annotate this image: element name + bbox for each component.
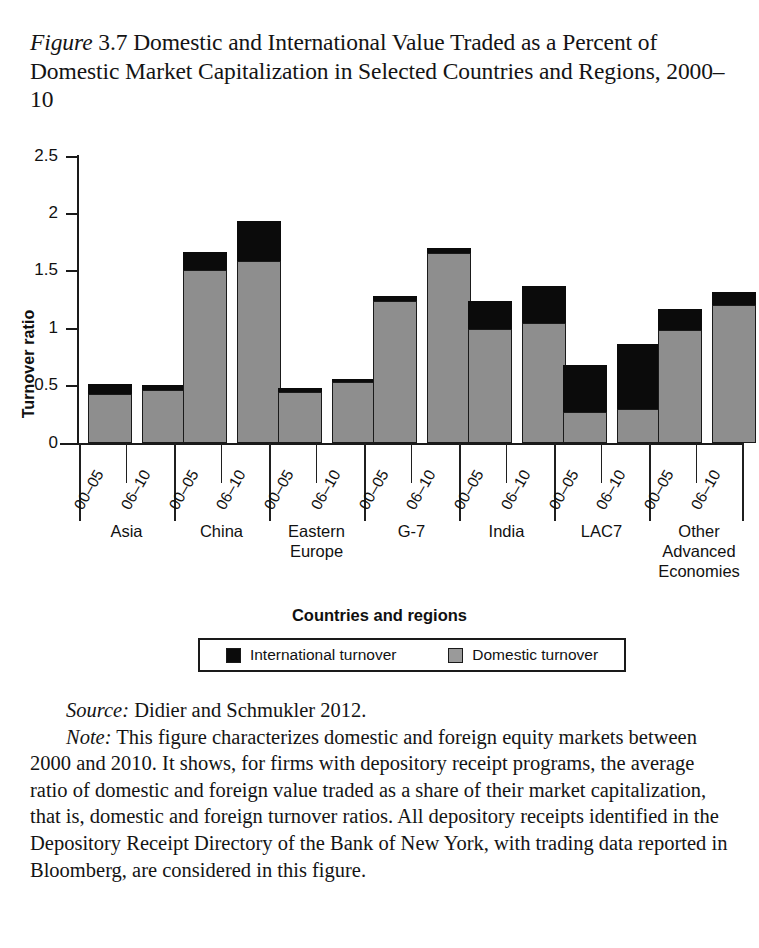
note-label: Note: (66, 726, 112, 748)
bar-segment-domestic (183, 270, 227, 443)
bar-segment-domestic (712, 305, 756, 443)
bar-segment-domestic (237, 261, 281, 443)
bar-other-advanced-00-05 (658, 309, 702, 443)
y-axis-title: Turnover ratio (20, 269, 38, 459)
y-tick-1.5 (66, 270, 78, 272)
period-separator (696, 443, 697, 483)
bar-china-06-10 (237, 221, 281, 443)
period-separator (411, 443, 412, 483)
bar-segment-domestic (373, 301, 417, 443)
bar-asia-00-05 (88, 384, 132, 444)
bar-segment-international (183, 252, 227, 270)
x-axis-line (60, 443, 743, 445)
note-line: Note: This figure characterizes domestic… (30, 724, 736, 884)
bar-segment-domestic (427, 253, 471, 443)
note-text: This figure characterizes domestic and f… (30, 726, 727, 881)
period-label-india-00-05: 00–05 (450, 467, 487, 513)
bar-segment-domestic (658, 330, 702, 443)
period-separator (601, 443, 602, 483)
bar-china-00-05 (183, 252, 227, 443)
bar-other-advanced-06-10 (712, 292, 756, 443)
figure-caption: Figure 3.7 Domestic and International Va… (30, 28, 730, 114)
y-tick-2.5 (66, 156, 78, 158)
figure-notes: Source: Didier and Schmukler 2012. Note:… (30, 697, 736, 883)
plot-area (78, 157, 742, 443)
period-label-lac7-00-05: 00–05 (545, 467, 582, 513)
period-label-asia-06-10: 06–10 (117, 467, 154, 513)
bar-asia-06-10 (142, 385, 186, 443)
bar-segment-international (237, 221, 281, 261)
period-label-g7-00-05: 00–05 (355, 467, 392, 513)
bar-india-00-05 (468, 301, 512, 443)
y-tick-label-1.5: 1.5 (6, 260, 58, 280)
bar-segment-domestic (88, 394, 132, 443)
period-label-lac7-06-10: 06–10 (592, 467, 629, 513)
bar-eastern-europe-00-05 (278, 388, 322, 443)
y-tick-label-0.5: 0.5 (6, 375, 58, 395)
legend-label-domestic: Domestic turnover (472, 646, 598, 664)
bar-lac7-00-05 (563, 365, 607, 443)
y-tick-0.5 (66, 385, 78, 387)
period-label-eastern-europe-00-05: 00–05 (260, 467, 297, 513)
bar-segment-international (563, 365, 607, 412)
source-text: Didier and Schmukler 2012. (134, 699, 366, 721)
period-label-asia-00-05: 00–05 (70, 467, 107, 513)
group-label-other-advanced: Other Advanced Economies (649, 521, 749, 581)
chart-legend: International turnover Domestic turnover (198, 638, 626, 672)
group-label-g7: G-7 (364, 521, 459, 541)
bar-india-06-10 (522, 286, 566, 443)
bar-segment-domestic (563, 412, 607, 443)
period-separator (506, 443, 507, 483)
group-label-asia: Asia (79, 521, 174, 541)
figure-number: 3.7 (98, 29, 127, 55)
period-separator (126, 443, 127, 483)
bar-chart: Turnover ratio 2.5 2 1.5 1 0.5 0 (0, 140, 759, 610)
period-separator (221, 443, 222, 483)
y-tick-1 (66, 328, 78, 330)
legend-item-international: International turnover (226, 646, 396, 664)
bar-segment-international (617, 344, 661, 409)
bar-segment-domestic (468, 329, 512, 443)
y-tick-label-2.5: 2.5 (6, 146, 58, 166)
source-line: Source: Didier and Schmukler 2012. (30, 697, 736, 724)
bar-segment-international (88, 384, 132, 394)
bar-lac7-06-10 (617, 344, 661, 444)
period-label-other-advanced-06-10: 06–10 (687, 467, 724, 513)
bar-g7-06-10 (427, 248, 471, 444)
legend-swatch-international-icon (226, 648, 241, 663)
group-separator (742, 443, 744, 521)
y-tick-label-2: 2 (6, 203, 58, 223)
period-label-g7-06-10: 06–10 (402, 467, 439, 513)
bar-g7-00-05 (373, 296, 417, 444)
group-label-china: China (174, 521, 269, 541)
bar-segment-international (522, 286, 566, 323)
bar-segment-domestic (617, 409, 661, 443)
period-label-other-advanced-00-05: 00–05 (640, 467, 677, 513)
group-label-lac7: LAC7 (554, 521, 649, 541)
bar-segment-international (658, 309, 702, 330)
period-label-china-06-10: 06–10 (212, 467, 249, 513)
group-label-india: India (459, 521, 554, 541)
legend-label-international: International turnover (250, 646, 396, 664)
bar-segment-domestic (522, 323, 566, 443)
figure-label: Figure (30, 29, 93, 55)
period-label-china-00-05: 00–05 (165, 467, 202, 513)
y-tick-2 (66, 213, 78, 215)
legend-item-domestic: Domestic turnover (448, 646, 598, 664)
y-tick-label-1: 1 (6, 318, 58, 338)
period-label-india-06-10: 06–10 (497, 467, 534, 513)
period-separator (316, 443, 317, 483)
bar-segment-international (712, 292, 756, 305)
source-label: Source: (66, 699, 129, 721)
bar-eastern-europe-06-10 (332, 379, 376, 443)
x-axis-title: Countries and regions (0, 606, 759, 625)
figure-title: Domestic and International Value Traded … (30, 29, 725, 112)
y-tick-label-0: 0 (6, 433, 58, 453)
y-tick-0 (66, 443, 78, 445)
bar-segment-domestic (142, 390, 186, 443)
legend-swatch-domestic-icon (448, 648, 463, 663)
group-label-eastern-europe: Eastern Europe (269, 521, 364, 561)
bar-segment-domestic (278, 392, 322, 444)
period-label-eastern-europe-06-10: 06–10 (307, 467, 344, 513)
bar-segment-domestic (332, 382, 376, 443)
